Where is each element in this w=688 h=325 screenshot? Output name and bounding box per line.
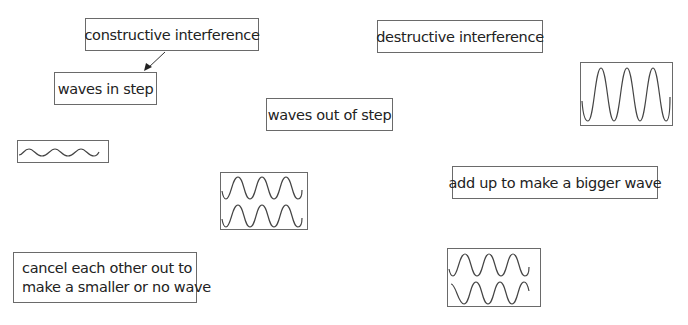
in-phase-waves-card[interactable] bbox=[220, 172, 308, 230]
large-amplitude-wave-icon bbox=[581, 63, 674, 127]
in-phase-waves-icon bbox=[221, 173, 309, 231]
small-amplitude-wave-icon bbox=[18, 141, 110, 164]
constructive-interference-label[interactable]: constructive interference bbox=[85, 18, 259, 51]
constructive-interference-text: constructive interference bbox=[84, 27, 259, 43]
destructive-interference-label[interactable]: destructive interference bbox=[377, 20, 543, 53]
small-amplitude-wave-card[interactable] bbox=[17, 140, 109, 163]
waves-out-of-step-label[interactable]: waves out of step bbox=[266, 98, 393, 131]
bigger-wave-text: add up to make a bigger wave bbox=[449, 175, 662, 191]
cancel-out-label[interactable]: cancel each other out to make a smaller … bbox=[13, 252, 197, 303]
cancel-out-text-line2: make a smaller or no wave bbox=[22, 278, 211, 297]
out-of-phase-waves-card[interactable] bbox=[447, 248, 541, 307]
waves-in-step-text: waves in step bbox=[58, 81, 154, 97]
cancel-out-text-line1: cancel each other out to bbox=[22, 259, 192, 278]
destructive-interference-text: destructive interference bbox=[376, 29, 544, 45]
bigger-wave-label[interactable]: add up to make a bigger wave bbox=[452, 166, 658, 199]
large-amplitude-wave-card[interactable] bbox=[580, 62, 673, 126]
waves-out-of-step-text: waves out of step bbox=[268, 107, 392, 123]
out-of-phase-waves-icon bbox=[448, 249, 542, 308]
waves-in-step-label[interactable]: waves in step bbox=[54, 72, 157, 105]
